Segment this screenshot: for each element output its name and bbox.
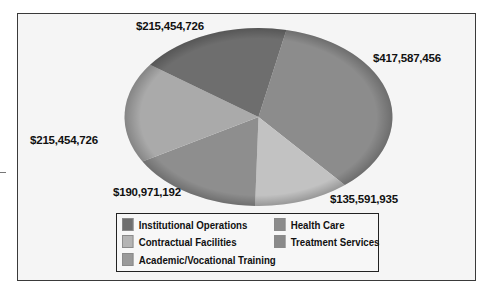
legend-swatch bbox=[274, 235, 285, 248]
label-health-care: $417,587,456 bbox=[373, 52, 441, 64]
legend-item-institutional-operations: Institutional Operations bbox=[122, 218, 247, 231]
legend-item-academic-vocational: Academic/Vocational Training bbox=[122, 253, 276, 266]
legend-label: Health Care bbox=[291, 219, 345, 231]
label-treatment-services: $135,591,935 bbox=[330, 193, 398, 205]
label-contractual-facilities: $215,454,726 bbox=[30, 134, 98, 146]
label-academic-vocational: $190,971,192 bbox=[113, 186, 181, 198]
chart-legend: Institutional Operations Contractual Fac… bbox=[116, 213, 379, 272]
legend-swatch bbox=[122, 218, 133, 231]
pie-rim-shading bbox=[125, 28, 393, 206]
legend-label: Contractual Facilities bbox=[139, 236, 237, 248]
legend-swatch bbox=[122, 253, 133, 266]
legend-swatch bbox=[274, 218, 285, 231]
legend-item-treatment-services: Treatment Services bbox=[274, 235, 380, 248]
legend-item-contractual-facilities: Contractual Facilities bbox=[122, 235, 237, 248]
legend-label: Academic/Vocational Training bbox=[139, 254, 276, 266]
legend-swatch bbox=[122, 235, 133, 248]
legend-label: Treatment Services bbox=[291, 236, 380, 248]
label-institutional-operations: $215,454,726 bbox=[136, 20, 204, 32]
legend-label: Institutional Operations bbox=[139, 219, 248, 231]
legend-item-health-care: Health Care bbox=[274, 218, 345, 231]
